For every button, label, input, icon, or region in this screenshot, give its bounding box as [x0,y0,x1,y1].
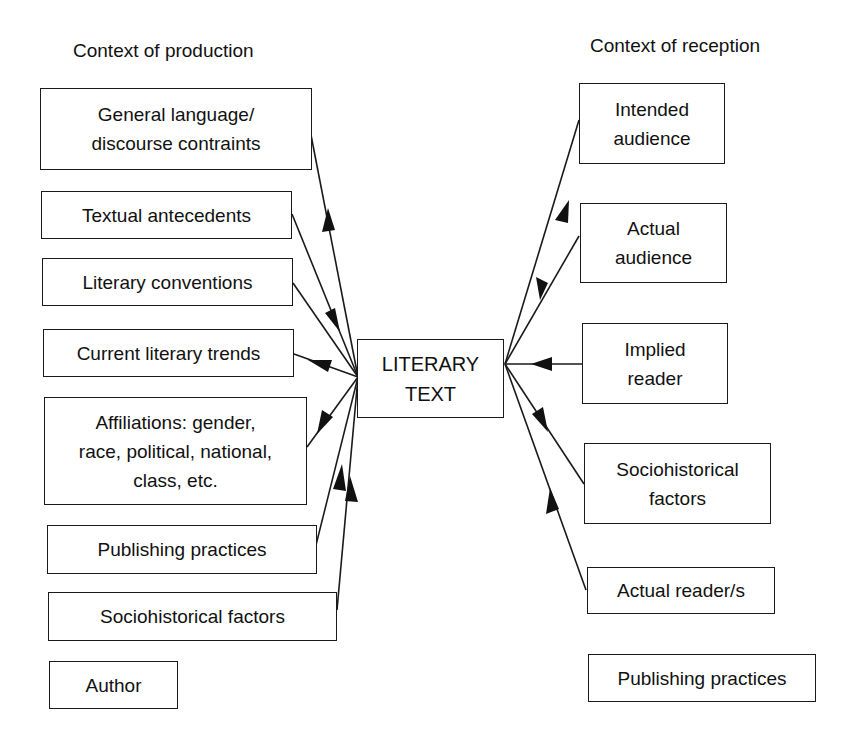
box-actual-audience: Actualaudience [580,203,727,283]
box-publishing-practices: Publishing practices [47,525,317,574]
box-intended-audience: Intendedaudience [579,83,725,164]
box-implied-reader: Impliedreader [582,323,728,404]
box-literary-conventions: Literary conventions [42,258,293,306]
box-sociohistorical-factors: Sociohistorical factors [48,592,337,641]
box-actual-readers: Actual reader/s [587,567,775,614]
heading-context-of-production: Context of production [73,40,254,62]
box-sociohistorical-factors-reception: Sociohistoricalfactors [584,443,771,524]
box-publishing-practices-reception: Publishing practices [588,654,816,702]
box-general-language: General language/discourse contraints [40,88,312,170]
box-affiliations: Affiliations: gender,race, political, na… [44,397,307,505]
box-textual-antecedents: Textual antecedents [41,191,292,239]
box-literary-text: LITERARYTEXT [357,339,504,418]
box-current-literary-trends: Current literary trends [43,329,294,377]
box-author: Author [49,661,178,709]
heading-context-of-reception: Context of reception [590,35,760,57]
